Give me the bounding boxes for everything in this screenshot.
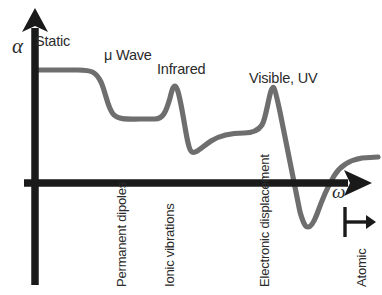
atomic-marker-icon: [345, 207, 376, 237]
x-axis-symbol-omega: ω: [332, 181, 345, 203]
mechanism-label-permanent-dipoles: Permanent dipoles: [115, 182, 129, 287]
band-label-static: Static: [35, 34, 70, 49]
band-label-infrared: Infrared: [157, 62, 205, 77]
polarizability-frequency-figure: α ω Static μ Wave Infrared Visible, UV P…: [0, 0, 382, 295]
mechanism-label-electronic-displacement: Electronic displacement: [258, 154, 272, 287]
y-axis-symbol-alpha: α: [12, 34, 23, 59]
band-label-microwave: μ Wave: [104, 48, 152, 63]
mechanism-label-atomic: Atomic: [355, 248, 369, 287]
polarizability-curve: [38, 70, 378, 227]
band-label-visible-uv: Visible, UV: [249, 71, 317, 86]
mechanism-label-ionic-vibrations: Ionic vibrations: [163, 203, 177, 287]
x-axis-arrowhead: [344, 170, 372, 196]
